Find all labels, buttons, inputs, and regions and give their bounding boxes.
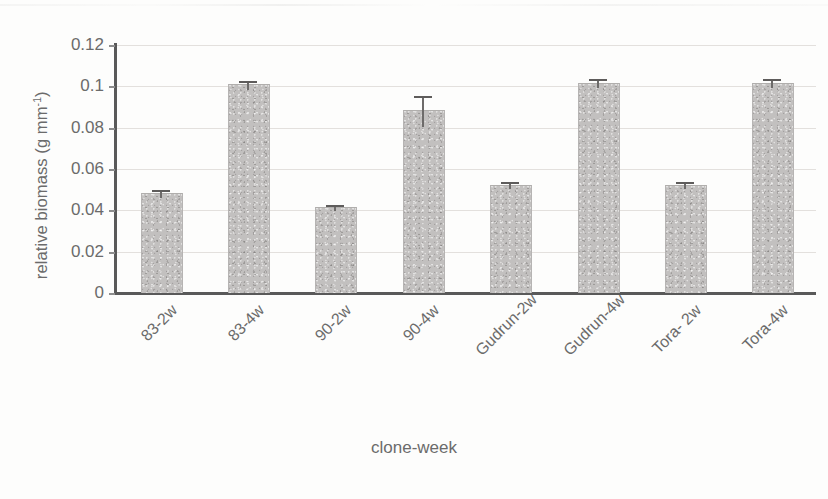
error-bar <box>578 79 618 88</box>
gridline <box>117 169 816 170</box>
bar[interactable] <box>141 193 183 293</box>
bar-group[interactable] <box>228 45 268 293</box>
error-bar-cap-top <box>589 79 607 81</box>
y-axis-tick-label: 0.06 <box>34 160 104 177</box>
y-axis-tick-mark <box>109 128 115 130</box>
error-bar <box>228 81 268 90</box>
y-axis-tick-mark <box>109 86 115 88</box>
error-bar <box>665 182 705 189</box>
y-axis-tick-label: 0.12 <box>34 36 104 53</box>
error-bar-cap-top <box>239 81 257 83</box>
error-bar-cap-top <box>501 182 519 184</box>
bar-group[interactable] <box>752 45 792 293</box>
bar-group[interactable] <box>665 45 705 293</box>
error-bar-cap-top <box>763 79 781 81</box>
gridline <box>117 86 816 87</box>
plot-area <box>117 45 816 293</box>
error-bar <box>141 190 181 197</box>
error-bar <box>315 205 355 211</box>
error-bar <box>752 79 792 88</box>
bar-group[interactable] <box>141 45 181 293</box>
bar[interactable] <box>315 207 357 293</box>
bar[interactable] <box>578 83 620 293</box>
bar[interactable] <box>665 185 707 293</box>
bar[interactable] <box>490 185 532 293</box>
y-axis-tick-mark <box>109 210 115 212</box>
bar-group[interactable] <box>403 45 443 293</box>
error-bar <box>490 182 530 188</box>
bar-group[interactable] <box>315 45 355 293</box>
y-axis-tick-label: 0.02 <box>34 243 104 260</box>
y-axis-tick-label: 0 <box>34 284 104 301</box>
x-axis-title: clone-week <box>0 438 828 458</box>
y-axis-tick-label: 0.1 <box>34 77 104 94</box>
y-axis-tick-label: 0.04 <box>34 201 104 218</box>
y-axis-tick-mark <box>109 252 115 254</box>
gridline <box>117 252 816 253</box>
y-axis-tick-mark <box>109 45 115 47</box>
error-bar-cap-top <box>676 182 694 184</box>
x-axis-tick-label: 83-4w <box>211 302 268 359</box>
x-axis-tick-label: Tora- 2w <box>648 302 705 359</box>
error-bar-stem <box>422 96 424 127</box>
error-bar-cap-top <box>414 96 432 98</box>
y-axis-tick-labels: 0.120.10.080.060.040.020 <box>32 0 104 499</box>
x-axis-tick-label: 90-2w <box>298 302 355 359</box>
error-bar <box>403 96 443 127</box>
bar-group[interactable] <box>490 45 530 293</box>
gridline <box>117 45 816 46</box>
x-axis-tick-label: 83-2w <box>123 302 180 359</box>
y-axis-tick-mark <box>109 293 115 295</box>
bar[interactable] <box>403 110 445 293</box>
x-axis-tick-label: Tora-4w <box>735 302 792 359</box>
bar[interactable] <box>228 84 270 293</box>
x-axis-tick-label: Gudrun-4w <box>560 302 617 359</box>
bar-group[interactable] <box>578 45 618 293</box>
gridline <box>117 210 816 211</box>
gridline <box>117 128 816 129</box>
x-axis-tick-label: Gudrun-2w <box>473 302 530 359</box>
y-axis-tick-label: 0.08 <box>34 119 104 136</box>
bar-chart: relative biomass (g mm-1) 0.120.10.080.0… <box>0 0 828 499</box>
x-axis-tick-label: 90-4w <box>386 302 443 359</box>
error-bar-cap-top <box>152 190 170 192</box>
bar[interactable] <box>752 83 794 293</box>
error-bar-cap-top <box>326 205 344 207</box>
y-axis-tick-mark <box>109 169 115 171</box>
